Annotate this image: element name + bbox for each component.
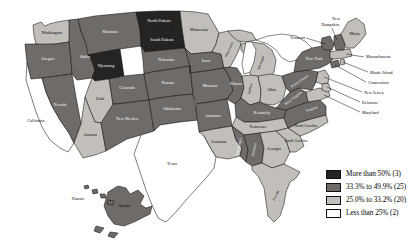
label-Vermont: Vermont: [290, 35, 305, 40]
label-Ohio: Ohio: [268, 87, 277, 92]
label-Iowa: Iowa: [202, 58, 211, 63]
label-Maine: Maine: [350, 31, 361, 36]
label-Tennessee: Tennessee: [249, 124, 267, 129]
label-Texas: Texas: [167, 161, 177, 166]
label-Louisiana: Louisiana: [212, 140, 227, 144]
label-Connecticut: Connecticut: [368, 80, 389, 85]
label-Illinois: Illinois: [230, 81, 243, 86]
label-Arizona: Arizona: [83, 132, 97, 137]
label-Minnesota: Minnesota: [190, 27, 208, 32]
label-Hawaii: Hawaii: [72, 196, 85, 201]
state-Minnesota[interactable]: [180, 11, 219, 54]
label-RhodeIsland: Rhode Island: [370, 70, 393, 75]
label-Alaska: Alaska: [118, 203, 130, 208]
legend-item-1[interactable]: 33.3% to 49.9% (25): [326, 181, 420, 194]
state-Delaware[interactable]: [322, 83, 331, 92]
label-Montana: Montana: [102, 29, 117, 34]
legend-item-2[interactable]: 25.0% to 33.2% (20): [326, 194, 420, 207]
legend-label-1: 33.3% to 49.9% (25): [346, 183, 406, 192]
state-RhodeIsland[interactable]: [340, 59, 345, 65]
label-Kentucky: Kentucky: [254, 110, 271, 115]
label-Colorado: Colorado: [119, 85, 135, 90]
legend-label-2: 25.0% to 33.2% (20): [346, 196, 406, 205]
label-Missouri: Missouri: [202, 83, 218, 88]
label-Delaware: Delaware: [362, 100, 378, 105]
label-California: California: [27, 118, 44, 123]
label-Massachusetts: Massachusetts: [366, 54, 391, 59]
legend-label-3: Less than 25% (2): [346, 209, 399, 218]
label-NewHampshire-line1: New: [332, 16, 340, 21]
leader-Connecticut: [335, 65, 366, 82]
legend-label-0: More than 50% (3): [346, 170, 401, 179]
label-Utah: Utah: [96, 96, 104, 101]
leader-Maryland: [324, 95, 360, 112]
legend-swatch-2: [326, 196, 341, 205]
label-Idaho: Idaho: [80, 54, 90, 59]
legend-swatch-0: [326, 170, 341, 179]
label-Arkansas: Arkansas: [205, 113, 221, 118]
legend-item-3[interactable]: Less than 25% (2): [326, 207, 420, 220]
leader-RhodeIsland: [343, 62, 368, 72]
label-Nevada: Nevada: [54, 102, 67, 107]
legend-swatch-1: [326, 183, 341, 192]
label-Oregon: Oregon: [42, 56, 55, 61]
label-Kansas: Kansas: [162, 80, 175, 85]
label-NorthDakota: North Dakota: [147, 18, 170, 23]
label-Oklahoma: Oklahoma: [163, 106, 181, 111]
label-SouthCarolina: South Carolina: [285, 139, 308, 143]
label-NewYork: New York: [305, 56, 323, 61]
label-Wyoming: Wyoming: [98, 63, 115, 68]
label-NewJersey: New Jersey: [364, 90, 385, 95]
label-Washington: Washington: [42, 30, 62, 35]
state-Massachusetts[interactable]: [330, 49, 352, 59]
label-NorthCarolina: North Carolina: [295, 124, 318, 128]
legend-swatch-3: [326, 209, 341, 218]
label-Georgia: Georgia: [267, 146, 281, 151]
label-Maryland: Maryland: [362, 110, 379, 115]
map-figure: Washington Oregon California Nevada Idah…: [0, 0, 420, 250]
label-NewMexico: New Mexico: [116, 116, 138, 121]
legend: More than 50% (3) 33.3% to 49.9% (25) 25…: [326, 168, 420, 220]
label-NewHampshire-line2: Hampshire: [321, 22, 340, 27]
legend-item-0[interactable]: More than 50% (3): [326, 168, 420, 181]
label-SouthDakota: South Dakota: [150, 37, 173, 42]
label-Nebraska: Nebraska: [158, 57, 174, 62]
state-NewJersey[interactable]: [316, 70, 329, 84]
